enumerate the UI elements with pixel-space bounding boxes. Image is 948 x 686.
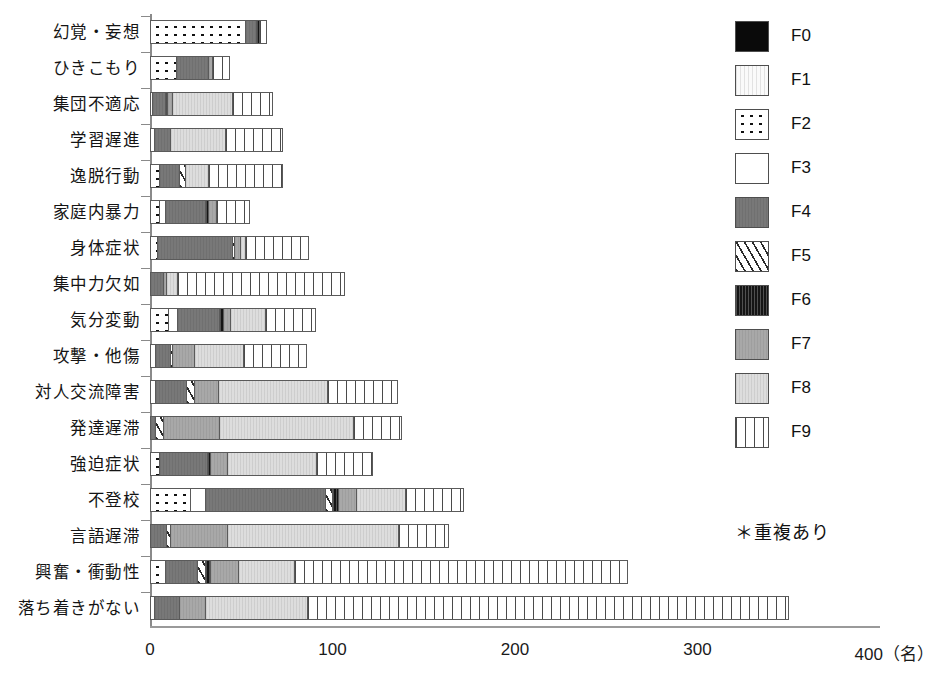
bar-segment-f9: [398, 524, 449, 548]
y-axis-tick: [141, 196, 150, 197]
bar-segment-f8: [205, 596, 307, 620]
stacked-bar: [150, 128, 283, 152]
bar-segment-f4: [205, 488, 325, 512]
category-label: 集中力欠如: [10, 266, 140, 300]
category-label: ひきこもり: [10, 50, 140, 84]
bar-segment-f2: [150, 560, 165, 584]
y-axis-tick: [141, 340, 150, 341]
category-label: 学習遅進: [10, 122, 140, 156]
legend-swatch-f9-icon: [735, 417, 769, 448]
bar-segment-f9: [225, 128, 283, 152]
legend-item-f6[interactable]: F6: [735, 278, 935, 322]
y-axis-tick: [141, 592, 150, 593]
category-label: 逸脱行動: [10, 158, 140, 192]
category-label: 落ち着きがない: [10, 590, 140, 624]
legend-item-f7[interactable]: F7: [735, 322, 935, 366]
bar-segment-f5: [197, 560, 204, 584]
bar-segment-f9: [212, 56, 230, 80]
bar-segment-f9: [232, 92, 272, 116]
category-label: 集団不適応: [10, 86, 140, 120]
bar-segment-f2: [150, 452, 159, 476]
y-axis-tick: [141, 376, 150, 377]
bar-segment-f9: [327, 380, 398, 404]
bar-segment-f9: [316, 452, 373, 476]
legend-item-f1[interactable]: F1: [735, 58, 935, 102]
legend-item-f2[interactable]: F2: [735, 102, 935, 146]
x-tick-label: 100: [318, 640, 346, 660]
bar-segment-f7: [170, 524, 227, 548]
bar-segment-f3: [168, 308, 177, 332]
bar-segment-f8: [185, 164, 209, 188]
legend-item-f8[interactable]: F8: [735, 366, 935, 410]
x-tick-label: 400（名）: [855, 640, 934, 665]
y-axis-tick: [141, 124, 150, 125]
category-label: 言語遅滞: [10, 518, 140, 552]
legend-label: F3: [791, 158, 811, 178]
legend-item-f3[interactable]: F3: [735, 146, 935, 190]
category-label: 不登校: [10, 482, 140, 516]
legend-swatch-f8-icon: [735, 373, 769, 404]
category-label: 身体症状: [10, 230, 140, 264]
stacked-bar: [150, 200, 250, 224]
bar-segment-f2: [150, 164, 159, 188]
bar-segment-f2: [150, 236, 157, 260]
stacked-bar: [150, 164, 283, 188]
bar-segment-f8: [230, 308, 265, 332]
bar-segment-f4: [177, 308, 219, 332]
bar-segment-f4: [165, 560, 198, 584]
bar-row: 落ち着きがない: [0, 590, 948, 624]
bar-segment-f2: [150, 56, 176, 80]
bar-segment-f2: [150, 488, 190, 512]
bar-segment-f4: [150, 272, 163, 296]
x-tick-label: 200: [501, 640, 529, 660]
bar-segment-f4: [155, 344, 170, 368]
bar-segment-f5: [155, 416, 162, 440]
legend-label: F2: [791, 114, 811, 134]
y-axis-tick: [141, 556, 150, 557]
legend-item-f9[interactable]: F9: [735, 410, 935, 454]
legend-swatch-f7-icon: [735, 329, 769, 360]
legend-note: ＊重複あり: [735, 518, 830, 544]
bar-segment-f9: [307, 596, 789, 620]
y-axis-tick: [141, 448, 150, 449]
legend-label: F5: [791, 246, 811, 266]
x-axis-line: [150, 626, 880, 628]
stacked-bar: [150, 272, 345, 296]
x-tick-label: 0: [145, 640, 154, 660]
bar-segment-f7: [210, 452, 226, 476]
bar-segment-f8: [238, 560, 295, 584]
legend: F0F1F2F3F4F5F6F7F8F9: [735, 14, 935, 454]
legend-label: F0: [791, 26, 811, 46]
legend-label: F7: [791, 334, 811, 354]
legend-swatch-f1-icon: [735, 65, 769, 96]
y-axis-tick: [141, 268, 150, 269]
legend-label: F8: [791, 378, 811, 398]
legend-item-f4[interactable]: F4: [735, 190, 935, 234]
y-axis-tick: [141, 232, 150, 233]
stacked-bar: [150, 56, 230, 80]
bar-segment-f8: [218, 380, 328, 404]
category-label: 興奮・衝動性: [10, 554, 140, 588]
legend-swatch-f3-icon: [735, 153, 769, 184]
legend-label: F4: [791, 202, 811, 222]
bar-segment-f4: [152, 92, 165, 116]
bar-segment-f4: [155, 380, 186, 404]
bar-segment-f7: [223, 308, 230, 332]
legend-item-f0[interactable]: F0: [735, 14, 935, 58]
category-label: 発達遅滞: [10, 410, 140, 444]
stacked-bar: [150, 344, 307, 368]
bar-segment-f2: [150, 308, 168, 332]
stacked-bar: [150, 20, 267, 44]
x-tick-label: 300: [683, 640, 711, 660]
legend-swatch-f2-icon: [735, 109, 769, 140]
legend-label: F9: [791, 422, 811, 442]
bar-segment-f8: [170, 128, 225, 152]
stacked-bar: [150, 488, 464, 512]
stacked-bar: [150, 308, 316, 332]
y-axis-tick: [141, 88, 150, 89]
bar-segment-f4: [157, 236, 232, 260]
category-label: 対人交流障害: [10, 374, 140, 408]
bar-segment-f8: [356, 488, 405, 512]
legend-item-f5[interactable]: F5: [735, 234, 935, 278]
bar-segment-f3: [190, 488, 205, 512]
